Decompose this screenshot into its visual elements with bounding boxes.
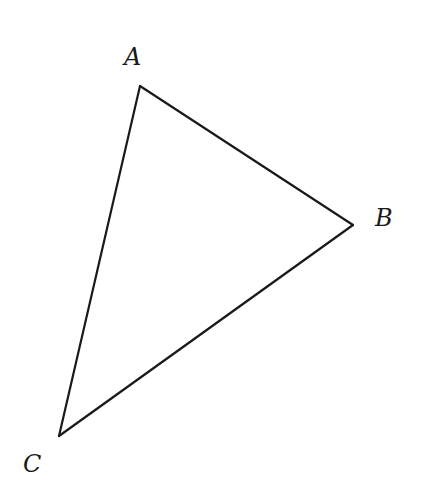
edge-bc bbox=[59, 225, 353, 436]
vertex-label-a: A bbox=[122, 43, 141, 71]
edge-ab bbox=[140, 86, 353, 225]
edge-ca bbox=[59, 86, 140, 436]
triangle-diagram: A B C bbox=[0, 0, 421, 487]
vertex-label-c: C bbox=[23, 450, 41, 478]
vertex-label-b: B bbox=[374, 204, 393, 232]
